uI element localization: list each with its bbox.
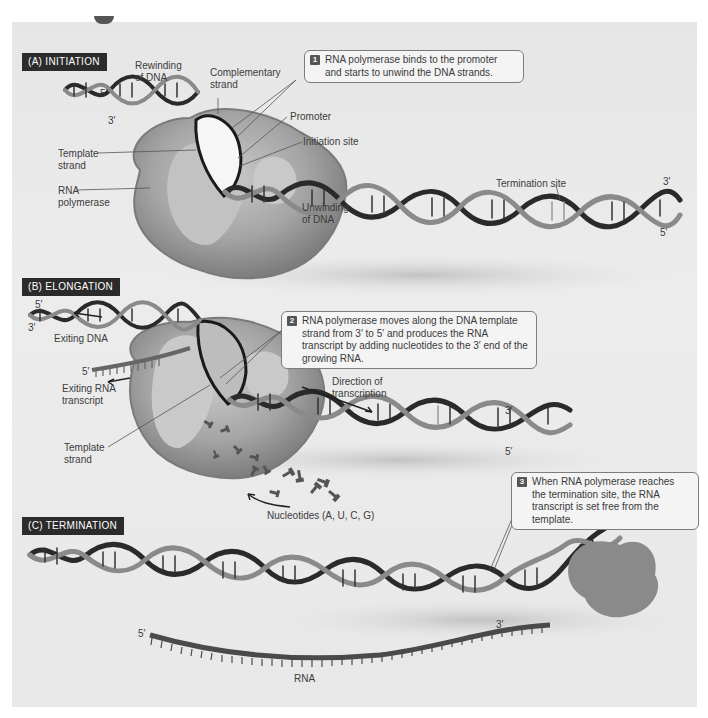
label-complementary-strand: Complementary strand — [210, 67, 281, 91]
end-b-left-5: 5′ — [35, 299, 42, 310]
callout-step-2: 2 RNA polymerase moves along the DNA tem… — [281, 311, 537, 369]
callout-step-3: 3 When RNA polymerase reaches the termin… — [511, 472, 699, 530]
end-a-right-3: 3′ — [663, 176, 670, 187]
step-badge-3: 3 — [517, 477, 527, 487]
section-label-initiation: (A) INITIATION — [22, 53, 107, 71]
label-initiation-site: Initiation site — [303, 136, 359, 148]
callout-text-3: When RNA polymerase reaches the terminat… — [532, 476, 674, 525]
end-b-left-3: 3′ — [28, 322, 35, 333]
label-template-strand-a: Template strand — [58, 148, 99, 172]
label-unwinding-dna: Unwinding of DNA — [302, 202, 349, 226]
step-badge-2: 2 — [287, 316, 297, 326]
label-promoter: Promoter — [290, 111, 331, 123]
end-a-right-5: 5′ — [660, 227, 667, 238]
label-rna: RNA — [294, 673, 315, 685]
end-b-right-5: 5′ — [505, 446, 512, 457]
end-c-rna-5: 5′ — [138, 628, 145, 639]
label-rna-polymerase: RNA polymerase — [58, 185, 110, 209]
label-template-strand-b: Template strand — [64, 442, 105, 466]
label-nucleotides: Nucleotides (A, U, C, G) — [267, 510, 374, 522]
label-direction-transcription: Direction of transcription — [332, 376, 386, 400]
dna-helix-b-left — [30, 302, 200, 329]
label-rewinding-dna: Rewinding of DNA — [135, 60, 182, 84]
end-b-rna-5: 5′ — [82, 366, 89, 377]
callout-step-1: 1 RNA polymerase binds to the promoter a… — [304, 50, 524, 83]
callout-text-2: RNA polymerase moves along the DNA templ… — [302, 315, 528, 364]
section-label-termination: (C) TERMINATION — [22, 517, 124, 535]
callout-text-1: RNA polymerase binds to the promoter and… — [325, 54, 497, 78]
end-c-rna-3: 3′ — [496, 619, 503, 630]
end-a-left-5: 5′ — [100, 88, 107, 99]
label-exiting-dna: Exiting DNA — [54, 333, 108, 345]
label-exiting-rna-transcript: Exiting RNA transcript — [62, 383, 116, 407]
end-b-right-3: 3′ — [505, 405, 512, 416]
end-a-left-3: 3′ — [108, 115, 115, 126]
section-label-elongation: (B) ELONGATION — [22, 278, 120, 296]
step-badge-1: 1 — [310, 55, 320, 65]
label-termination-site: Termination site — [496, 178, 566, 190]
